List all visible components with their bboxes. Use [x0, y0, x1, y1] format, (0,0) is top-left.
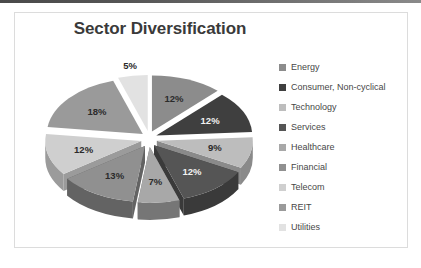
pie-slice-label: 12%: [164, 93, 184, 104]
pie-slice-label: 12%: [182, 166, 202, 177]
pie-slice-label: 18%: [87, 106, 107, 117]
pie-chart[interactable]: 12%12%9%12%7%13%12%18%5%: [31, 53, 283, 243]
chart-frame: Sector Diversification 12%12%9%12%7%13%1…: [14, 12, 408, 248]
legend-swatch-icon: [279, 164, 286, 171]
legend-item[interactable]: Utilities: [279, 217, 409, 237]
legend-item[interactable]: REIT: [279, 197, 409, 217]
legend-item-label: Services: [291, 117, 326, 137]
legend-swatch-icon: [279, 124, 286, 131]
legend-item-label: Financial: [291, 157, 327, 177]
legend-item-label: Consumer, Non-cyclical: [291, 77, 386, 97]
legend-item-label: Technology: [291, 97, 337, 117]
pie-slice-label: 12%: [74, 144, 94, 155]
legend-item[interactable]: Financial: [279, 157, 409, 177]
pie-slice-label: 9%: [208, 142, 222, 153]
legend-item[interactable]: Technology: [279, 97, 409, 117]
window-top-strip: [0, 0, 421, 3]
legend-item-label: Healthcare: [291, 137, 335, 157]
pie-svg: 12%12%9%12%7%13%12%18%5%: [31, 53, 283, 243]
legend-swatch-icon: [279, 84, 286, 91]
legend-item[interactable]: Consumer, Non-cyclical: [279, 77, 409, 97]
legend-swatch-icon: [279, 224, 286, 231]
legend-item[interactable]: Telecom: [279, 177, 409, 197]
legend-swatch-icon: [279, 144, 286, 151]
legend-item[interactable]: Energy: [279, 57, 409, 77]
legend-item-label: Telecom: [291, 177, 325, 197]
legend-item-label: Energy: [291, 57, 320, 77]
pie-slice-label: 13%: [105, 170, 125, 181]
legend-swatch-icon: [279, 184, 286, 191]
chart-title: Sector Diversification: [15, 19, 305, 39]
legend-item-label: REIT: [291, 197, 312, 217]
chart-legend: EnergyConsumer, Non-cyclicalTechnologySe…: [279, 57, 409, 237]
legend-item[interactable]: Healthcare: [279, 137, 409, 157]
legend-swatch-icon: [279, 64, 286, 71]
pie-slice-label: 5%: [123, 60, 137, 71]
legend-swatch-icon: [279, 204, 286, 211]
pie-slice-label: 7%: [149, 176, 163, 187]
legend-swatch-icon: [279, 104, 286, 111]
legend-item-label: Utilities: [291, 217, 320, 237]
legend-item[interactable]: Services: [279, 117, 409, 137]
pie-slice-label: 12%: [201, 115, 221, 126]
pie-slice-side: [138, 200, 180, 220]
